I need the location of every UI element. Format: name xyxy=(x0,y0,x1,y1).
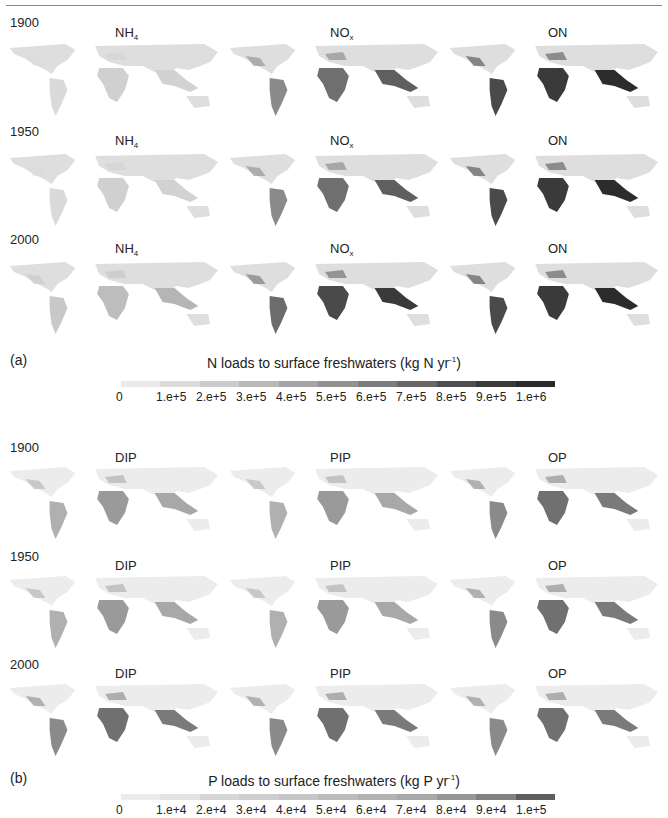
tick-label: 5.e+4 xyxy=(316,803,356,817)
year-label: 2000 xyxy=(10,657,39,672)
year-label: 2000 xyxy=(10,232,39,247)
tick-label: 3.e+5 xyxy=(236,390,276,404)
colorbar-segment xyxy=(279,794,318,800)
colorbar-segment xyxy=(160,794,199,800)
colorbar-segment xyxy=(121,381,160,387)
variable-label: NOx xyxy=(330,133,354,150)
tick-label: 4.e+5 xyxy=(276,390,316,404)
colorbar-segment xyxy=(476,794,515,800)
world-map xyxy=(226,258,444,338)
tick-label: 8.e+5 xyxy=(436,390,476,404)
colorbar-segment xyxy=(476,381,515,387)
world-map xyxy=(446,572,664,652)
colorbar-segment xyxy=(160,381,199,387)
world-map xyxy=(226,572,444,652)
variable-label: NH4 xyxy=(115,241,138,258)
colorbar-segment xyxy=(516,381,555,387)
colorbar-segment xyxy=(200,794,239,800)
tick-label: 7.e+4 xyxy=(396,803,436,817)
variable-label: OP xyxy=(548,558,567,573)
tick-label: 0 xyxy=(116,803,156,817)
colorbar-segment xyxy=(318,794,357,800)
year-label: 1950 xyxy=(10,124,39,139)
world-map xyxy=(6,572,224,652)
tick-label: 1.e+5 xyxy=(516,803,556,817)
colorbar-segment xyxy=(200,381,239,387)
world-map xyxy=(446,150,664,230)
tick-label: 0 xyxy=(116,390,156,404)
year-label: 1900 xyxy=(10,440,39,455)
world-map xyxy=(446,463,664,543)
colorbar-segment xyxy=(239,381,278,387)
colorbar-ticks: 01.e+42.e+43.e+44.e+45.e+46.e+47.e+48.e+… xyxy=(116,803,556,817)
world-map xyxy=(226,150,444,230)
tick-label: 7.e+5 xyxy=(396,390,436,404)
year-label: 1950 xyxy=(10,549,39,564)
year-label: 1900 xyxy=(10,15,39,30)
world-map xyxy=(226,463,444,543)
colorbar-segment xyxy=(358,794,397,800)
world-map xyxy=(6,40,224,120)
colorbar-segment xyxy=(121,794,160,800)
world-map xyxy=(226,40,444,120)
world-map xyxy=(446,258,664,338)
variable-label: NOx xyxy=(330,241,354,258)
variable-label: PIP xyxy=(330,558,351,573)
tick-label: 5.e+5 xyxy=(316,390,356,404)
colorbar-title: N loads to surface freshwaters (kg N yr-… xyxy=(0,355,668,371)
variable-label: PIP xyxy=(330,666,351,681)
variable-label: NH4 xyxy=(115,133,138,150)
tick-label: 6.e+5 xyxy=(356,390,396,404)
tick-label: 1.e+5 xyxy=(156,390,196,404)
top-rule xyxy=(6,5,662,6)
variable-label: ON xyxy=(548,25,568,40)
colorbar-segment xyxy=(437,381,476,387)
colorbar-segment xyxy=(397,381,436,387)
tick-label: 2.e+4 xyxy=(196,803,236,817)
tick-label: 4.e+4 xyxy=(276,803,316,817)
world-map xyxy=(446,680,664,760)
tick-label: 9.e+5 xyxy=(476,390,516,404)
world-map xyxy=(6,258,224,338)
tick-label: 9.e+4 xyxy=(476,803,516,817)
variable-label: DIP xyxy=(115,666,137,681)
tick-label: 3.e+4 xyxy=(236,803,276,817)
tick-label: 2.e+5 xyxy=(196,390,236,404)
colorbar xyxy=(121,794,555,800)
world-map xyxy=(6,150,224,230)
tick-label: 1.e+6 xyxy=(516,390,556,404)
colorbar-ticks: 01.e+52.e+53.e+54.e+55.e+56.e+57.e+58.e+… xyxy=(116,390,556,404)
tick-label: 8.e+4 xyxy=(436,803,476,817)
world-map xyxy=(446,40,664,120)
variable-label: DIP xyxy=(115,558,137,573)
colorbar-segment xyxy=(397,794,436,800)
colorbar-segment xyxy=(437,794,476,800)
world-map xyxy=(6,680,224,760)
colorbar-segment xyxy=(318,381,357,387)
colorbar xyxy=(121,381,555,387)
world-map xyxy=(226,680,444,760)
tick-label: 6.e+4 xyxy=(356,803,396,817)
colorbar-segment xyxy=(516,794,555,800)
world-map xyxy=(6,463,224,543)
variable-label: ON xyxy=(548,241,568,256)
colorbar-segment xyxy=(358,381,397,387)
colorbar-segment xyxy=(279,381,318,387)
variable-label: OP xyxy=(548,666,567,681)
colorbar-title: P loads to surface freshwaters (kg P yr-… xyxy=(0,773,668,789)
variable-label: ON xyxy=(548,133,568,148)
colorbar-segment xyxy=(239,794,278,800)
tick-label: 1.e+4 xyxy=(156,803,196,817)
